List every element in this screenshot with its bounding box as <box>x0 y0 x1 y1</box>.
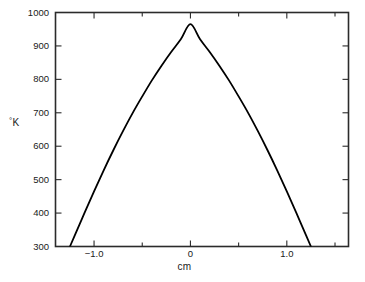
x-tick-label: 0 <box>188 249 193 259</box>
x-tick-label: −1.0 <box>85 249 104 259</box>
chart-figure: °K 3004005006007008009001000 −1.001.0 cm <box>0 0 365 282</box>
x-axis-title: cm <box>0 261 365 272</box>
x-tick-label: 1.0 <box>280 249 293 259</box>
x-tick-label-group: −1.001.0 <box>0 0 365 282</box>
x-axis-title-text: cm <box>177 261 191 272</box>
